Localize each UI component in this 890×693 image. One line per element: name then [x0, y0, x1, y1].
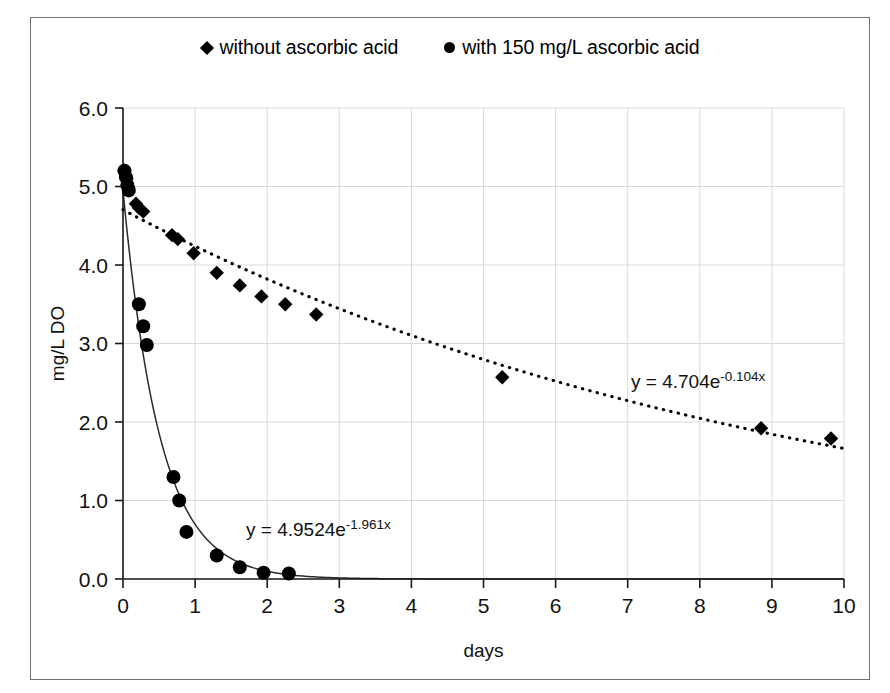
x-tick-label: 8: [694, 594, 706, 617]
data-point-circle: [172, 494, 186, 508]
x-tick-label: 10: [832, 594, 855, 617]
y-tick-label: 0.0: [79, 568, 108, 591]
data-point-diamond: [233, 278, 247, 292]
y-tick-label: 4.0: [79, 254, 108, 277]
y-tick-label: 6.0: [79, 97, 108, 120]
axis-titles: mg/L DOdays: [47, 306, 504, 661]
x-tick-label: 6: [550, 594, 562, 617]
y-axis-title: mg/L DO: [47, 306, 68, 381]
y-tick-label: 1.0: [79, 489, 108, 512]
data-point-diamond: [254, 289, 268, 303]
data-point-diamond: [824, 431, 838, 445]
y-tick-label: 3.0: [79, 332, 108, 355]
data-point-circle: [179, 525, 193, 539]
gridlines: [123, 108, 844, 579]
data-point-diamond: [495, 370, 509, 384]
x-tick-label: 9: [766, 594, 778, 617]
equation-label-with-ascorbic-acid: y = 4.9524e-1.961x: [246, 517, 391, 541]
data-point-circle: [233, 560, 247, 574]
data-point-circle: [136, 319, 150, 333]
data-point-circle: [282, 567, 296, 581]
data-point-diamond: [309, 307, 323, 321]
data-point-diamond: [278, 297, 292, 311]
y-tick-label: 2.0: [79, 411, 108, 434]
data-point-circle: [140, 338, 154, 352]
data-point-circle: [210, 548, 224, 562]
data-point-circle: [122, 183, 136, 197]
equation-label-without-ascorbic-acid: y = 4.704e-0.104x: [631, 369, 766, 393]
x-tick-label: 7: [622, 594, 634, 617]
x-tick-label: 5: [478, 594, 490, 617]
figure-frame: without ascorbic acid with 150 mg/L asco…: [30, 17, 870, 680]
x-tick-label: 0: [117, 594, 129, 617]
data-point-circle: [132, 297, 146, 311]
data-point-circle: [166, 470, 180, 484]
data-point-diamond: [210, 266, 224, 280]
x-tick-label: 4: [406, 594, 418, 617]
x-tick-label: 2: [261, 594, 273, 617]
y-tick-label: 5.0: [79, 175, 108, 198]
x-tick-label: 3: [333, 594, 345, 617]
x-tick-label: 1: [189, 594, 201, 617]
chart-plot-area: 0.01.02.03.04.05.06.0012345678910 y = 4.…: [31, 18, 871, 681]
equation-annotations: y = 4.704e-0.104xy = 4.9524e-1.961x: [246, 369, 766, 541]
x-axis-title: days: [463, 640, 503, 661]
data-point-circle: [257, 566, 271, 580]
axis-ticks: [115, 108, 844, 588]
